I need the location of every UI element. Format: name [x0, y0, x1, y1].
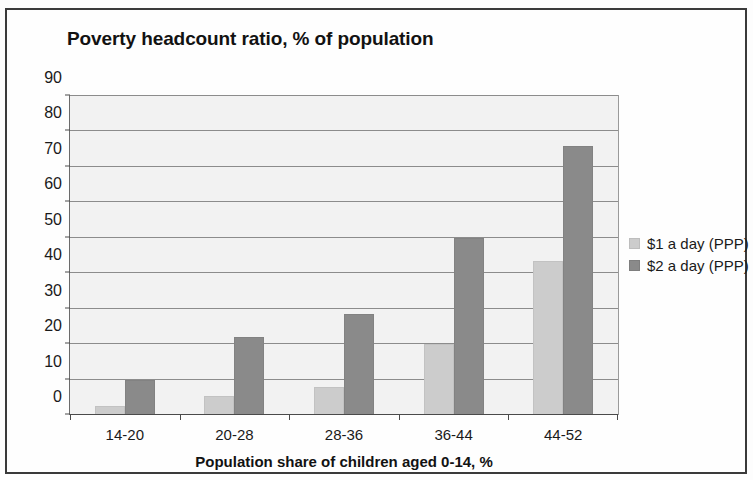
bar-group: 14-20 [70, 96, 180, 415]
x-axis-tick-label: 14-20 [106, 426, 144, 443]
bar-series1 [204, 396, 234, 415]
bar-series2 [234, 337, 264, 415]
y-axis-tick-label: 90 [44, 69, 62, 87]
bar-series2 [563, 146, 593, 415]
y-axis-tick-label: 10 [44, 353, 62, 371]
y-axis-tick-label: 20 [44, 317, 62, 335]
x-axis-tick-label: 36-44 [434, 426, 472, 443]
bar-series2 [344, 314, 374, 415]
bar-group: 28-36 [289, 96, 399, 415]
x-axis-line [70, 414, 618, 415]
y-axis-tick-label: 40 [44, 246, 62, 264]
x-axis-tick-label: 28-36 [325, 426, 363, 443]
bar-groups: 14-2020-2828-3636-4444-52 [70, 96, 618, 415]
y-axis-tick-label: 30 [44, 282, 62, 300]
x-axis-tick-mark [70, 415, 71, 420]
y-axis-tick-label: 60 [44, 175, 62, 193]
chart-legend: $1 a day (PPP)$2 a day (PPP) [629, 232, 749, 276]
x-axis-tick-mark [289, 415, 290, 420]
y-axis-tick-label: 70 [44, 140, 62, 158]
bar-series1 [424, 344, 454, 415]
x-axis-tick-label: 20-28 [215, 426, 253, 443]
y-axis-tick-label: 0 [53, 388, 62, 406]
x-axis-tick-mark [508, 415, 509, 420]
bar-series1 [533, 261, 563, 415]
legend-item-label: $2 a day (PPP) [647, 257, 749, 274]
chart-figure: Poverty headcount ratio, % of population… [0, 0, 753, 480]
x-axis-title: Population share of children aged 0-14, … [69, 453, 619, 470]
x-axis-tick-mark [180, 415, 181, 420]
x-axis-tick-mark [399, 415, 400, 420]
legend-item[interactable]: $2 a day (PPP) [629, 254, 749, 276]
bar-series1 [314, 387, 344, 415]
bar-group: 20-28 [180, 96, 290, 415]
x-axis-tick-label: 44-52 [544, 426, 582, 443]
y-axis-tick-label: 50 [44, 211, 62, 229]
bar-group: 36-44 [399, 96, 509, 415]
chart-title: Poverty headcount ratio, % of population [67, 28, 434, 50]
bar-group: 44-52 [508, 96, 618, 415]
plot-wrapper: 0102030405060708090 14-2020-2828-3636-44… [69, 95, 619, 415]
y-axis-tick-label: 80 [44, 104, 62, 122]
bar-series2 [125, 380, 155, 415]
figure-frame: Poverty headcount ratio, % of population… [5, 8, 747, 474]
legend-item[interactable]: $1 a day (PPP) [629, 232, 749, 254]
legend-item-label: $1 a day (PPP) [647, 235, 749, 252]
bar-series2 [454, 238, 484, 415]
x-axis-tick-mark [617, 415, 618, 420]
legend-swatch-icon [629, 260, 640, 271]
plot-area: 0102030405060708090 14-2020-2828-3636-44… [69, 95, 619, 415]
legend-swatch-icon [629, 238, 640, 249]
